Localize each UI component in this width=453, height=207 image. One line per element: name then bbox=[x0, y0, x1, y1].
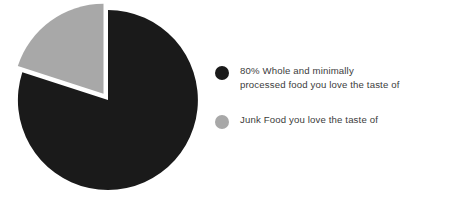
legend-item-whole-food[interactable]: 80% Whole and minimally processed food y… bbox=[215, 64, 453, 93]
legend-swatch-junk-food-icon bbox=[215, 115, 229, 129]
legend-label-whole-food: 80% Whole and minimally processed food y… bbox=[240, 64, 400, 93]
pie-plot-area bbox=[0, 0, 210, 207]
legend-item-junk-food[interactable]: Junk Food you love the taste of bbox=[215, 113, 453, 129]
chart-legend: 80% Whole and minimally processed food y… bbox=[215, 64, 453, 129]
legend-swatch-whole-food-icon bbox=[215, 66, 229, 80]
pie-svg bbox=[0, 0, 210, 207]
legend-label-junk-food: Junk Food you love the taste of bbox=[240, 113, 378, 127]
pie-chart-figure: 80% Whole and minimally processed food y… bbox=[0, 0, 453, 207]
